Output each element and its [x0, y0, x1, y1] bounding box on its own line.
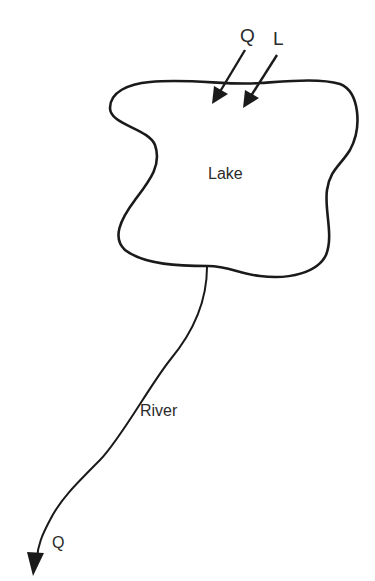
inflow-q-arrow — [212, 50, 245, 104]
inflow-q-label: Q — [240, 25, 255, 46]
outflow-q-label: Q — [52, 534, 64, 551]
river-label: River — [140, 402, 178, 419]
outflow-arrowhead — [27, 552, 44, 576]
load-l-label: L — [273, 28, 284, 49]
lake-river-diagram: Q L Lake River Q — [0, 0, 375, 581]
river — [27, 267, 207, 576]
lake-label: Lake — [208, 165, 243, 182]
